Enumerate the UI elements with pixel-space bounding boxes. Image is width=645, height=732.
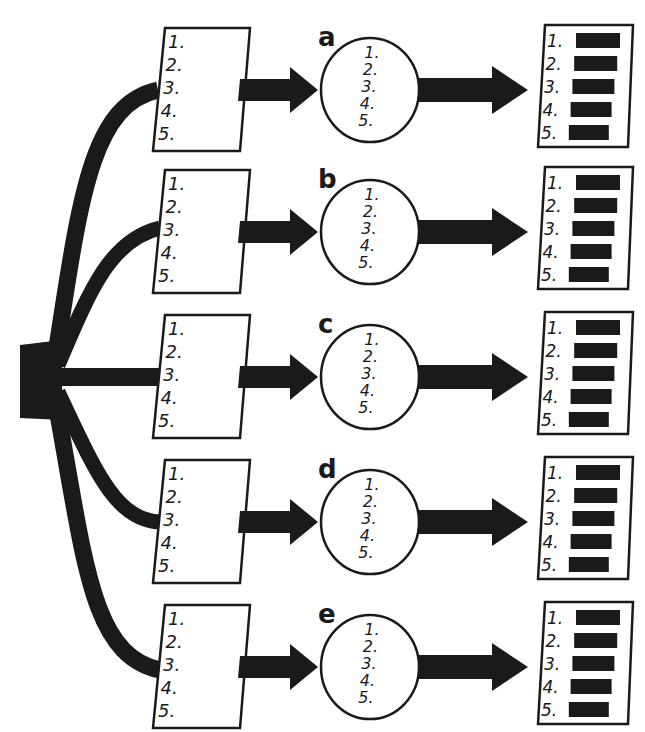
row-e: 1.2.3.4.5.e1.2.3.4.5.1.2.3.4.5. — [153, 599, 633, 728]
input-item: 3. — [163, 654, 180, 675]
output-bar — [571, 244, 612, 259]
output-item: 5. — [541, 265, 557, 285]
output-item: 2. — [546, 631, 562, 651]
output-bar — [571, 534, 612, 549]
row-b: 1.2.3.4.5.b1.2.3.4.5.1.2.3.4.5. — [153, 164, 633, 293]
row-c: 1.2.3.4.5.c1.2.3.4.5.1.2.3.4.5. — [153, 309, 633, 438]
output-item: 1. — [547, 608, 563, 628]
circle-item: 5. — [358, 111, 373, 130]
row-label: e — [318, 599, 336, 629]
arrow-right-icon — [418, 498, 528, 546]
output-bar — [572, 656, 614, 671]
input-item: 3. — [163, 509, 180, 530]
row-label: a — [318, 22, 336, 52]
input-item: 4. — [161, 242, 178, 263]
input-item: 3. — [163, 219, 180, 240]
arrow-right-icon — [238, 209, 318, 255]
input-item: 2. — [166, 54, 183, 75]
input-item: 4. — [161, 532, 178, 553]
arrow-right-icon — [418, 66, 528, 114]
output-bar — [572, 511, 614, 526]
output-bar — [574, 198, 617, 213]
output-item: 1. — [547, 318, 563, 338]
input-item: 1. — [168, 318, 185, 339]
input-item: 1. — [168, 463, 185, 484]
input-item: 3. — [163, 77, 180, 98]
output-bar — [576, 320, 620, 335]
output-bar — [569, 557, 609, 572]
input-item: 2. — [166, 631, 183, 652]
output-item: 5. — [541, 123, 557, 143]
input-item: 5. — [158, 410, 175, 431]
circle-item: 5. — [358, 398, 373, 417]
circle-item: 5. — [358, 253, 373, 272]
row-d: 1.2.3.4.5.d1.2.3.4.5.1.2.3.4.5. — [153, 454, 633, 583]
output-item: 3. — [544, 77, 560, 97]
row-label: b — [318, 164, 337, 194]
output-item: 3. — [544, 654, 560, 674]
arrow-right-icon — [418, 353, 528, 401]
output-bar — [569, 702, 609, 717]
arrow-right-icon — [238, 354, 318, 400]
output-item: 3. — [544, 219, 560, 239]
output-item: 2. — [546, 341, 562, 361]
input-item: 1. — [168, 173, 185, 194]
output-item: 1. — [547, 31, 563, 51]
input-item: 5. — [158, 265, 175, 286]
input-item: 2. — [166, 341, 183, 362]
input-item: 1. — [168, 608, 185, 629]
output-bar — [572, 366, 614, 381]
output-item: 4. — [543, 100, 559, 120]
input-item: 2. — [166, 486, 183, 507]
output-item: 4. — [543, 532, 559, 552]
output-bar — [576, 175, 620, 190]
source-trunk — [20, 90, 160, 670]
arrow-right-icon — [418, 643, 528, 691]
output-item: 4. — [543, 677, 559, 697]
output-item: 4. — [543, 387, 559, 407]
output-bar — [569, 125, 609, 140]
arrow-right-icon — [238, 67, 318, 113]
circle-item: 5. — [358, 543, 373, 562]
arrow-right-icon — [418, 208, 528, 256]
circle-item: 5. — [358, 688, 373, 707]
output-bar — [576, 33, 620, 48]
branch-to-e — [55, 398, 160, 670]
input-item: 5. — [158, 555, 175, 576]
output-item: 2. — [546, 54, 562, 74]
process-flow-diagram: 1.2.3.4.5.a1.2.3.4.5.1.2.3.4.5.1.2.3.4.5… — [0, 0, 645, 732]
output-bar — [571, 679, 612, 694]
row-a: 1.2.3.4.5.a1.2.3.4.5.1.2.3.4.5. — [153, 22, 633, 151]
output-bar — [576, 465, 620, 480]
row-label: c — [318, 309, 333, 339]
input-item: 4. — [161, 677, 178, 698]
output-bar — [574, 488, 617, 503]
output-item: 3. — [544, 364, 560, 384]
output-item: 3. — [544, 509, 560, 529]
input-item: 4. — [161, 387, 178, 408]
output-item: 5. — [541, 410, 557, 430]
input-item: 5. — [158, 123, 175, 144]
row-label: d — [318, 454, 337, 484]
output-item: 2. — [546, 486, 562, 506]
output-bar — [574, 343, 617, 358]
output-item: 5. — [541, 555, 557, 575]
output-item: 1. — [547, 173, 563, 193]
output-bar — [569, 267, 609, 282]
input-item: 3. — [163, 364, 180, 385]
output-bar — [574, 56, 617, 71]
input-item: 4. — [161, 100, 178, 121]
output-item: 1. — [547, 463, 563, 483]
output-bar — [571, 389, 612, 404]
input-item: 1. — [168, 31, 185, 52]
output-item: 4. — [543, 242, 559, 262]
arrow-right-icon — [238, 499, 318, 545]
output-item: 5. — [541, 700, 557, 720]
output-bar — [576, 610, 620, 625]
output-bar — [569, 412, 609, 427]
output-bar — [572, 221, 614, 236]
output-bar — [574, 633, 617, 648]
arrow-right-icon — [238, 644, 318, 690]
output-item: 2. — [546, 196, 562, 216]
output-bar — [571, 102, 612, 117]
